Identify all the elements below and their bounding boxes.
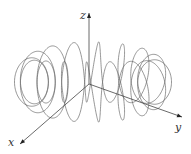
x-axis-label: x [8,136,15,149]
toroidal-helix-figure: z x y [0,0,191,154]
y-axis-arrowhead-icon [177,113,182,117]
z-axis-arrowhead-icon [87,13,91,18]
y-axis-label: y [174,121,182,134]
y-axis [89,84,182,117]
z-axis-label: z [79,9,86,22]
toroidal-helix-curve [15,42,172,122]
